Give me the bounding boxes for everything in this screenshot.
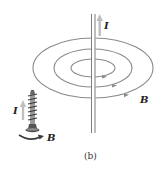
arrowhead-icon xyxy=(124,94,129,98)
current-wire xyxy=(91,14,96,133)
arrowhead-icon xyxy=(112,84,117,88)
figure-caption: (b) xyxy=(84,151,97,161)
screw-icon xyxy=(26,90,40,132)
screw-current-label: I xyxy=(12,105,18,116)
field-label: B xyxy=(139,94,148,105)
screw-current-arrow-icon xyxy=(20,100,26,120)
current-label: I xyxy=(103,20,109,31)
magnetic-field-diagram: I B I B (b) xyxy=(0,0,160,169)
rotation-arrow-icon xyxy=(19,135,44,140)
current-arrow-icon xyxy=(97,14,103,36)
screw-field-label: B xyxy=(46,132,55,143)
